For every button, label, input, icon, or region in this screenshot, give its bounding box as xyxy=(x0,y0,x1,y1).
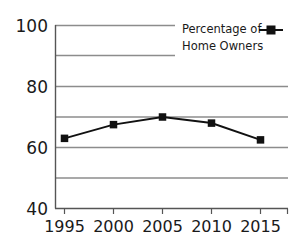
x-tick-label-2000: 2000 xyxy=(93,217,134,236)
x-tick-label-1995: 1995 xyxy=(44,217,85,236)
data-point-2010 xyxy=(208,119,216,127)
y-tick-label-40: 40 xyxy=(26,199,48,219)
gridlines xyxy=(55,56,288,179)
legend-marker-square xyxy=(267,26,276,35)
x-tick-label-2015: 2015 xyxy=(240,217,281,236)
data-point-1995 xyxy=(61,135,69,143)
series-percentage-of-home-owners xyxy=(61,113,265,143)
data-point-2005 xyxy=(159,113,167,121)
data-point-2015 xyxy=(257,136,265,144)
series-markers xyxy=(61,113,265,143)
x-tick-label-2005: 2005 xyxy=(142,217,183,236)
y-tick-label-100: 100 xyxy=(16,16,48,36)
legend: Percentage of Home Owners xyxy=(182,22,283,53)
chart-canvas: 100 80 60 40 1995 2000 2005 2010 2015 Pe… xyxy=(0,0,300,238)
x-axis-ticks xyxy=(65,209,288,215)
x-tick-label-2010: 2010 xyxy=(191,217,232,236)
legend-line-square-marker-icon xyxy=(259,26,283,35)
y-tick-label-80: 80 xyxy=(26,77,48,97)
legend-label-line2: Home Owners xyxy=(182,39,263,53)
data-point-2000 xyxy=(110,121,118,129)
line-chart: 100 80 60 40 1995 2000 2005 2010 2015 Pe… xyxy=(0,0,300,238)
y-tick-label-60: 60 xyxy=(26,138,48,158)
legend-label-line1: Percentage of xyxy=(182,22,262,36)
